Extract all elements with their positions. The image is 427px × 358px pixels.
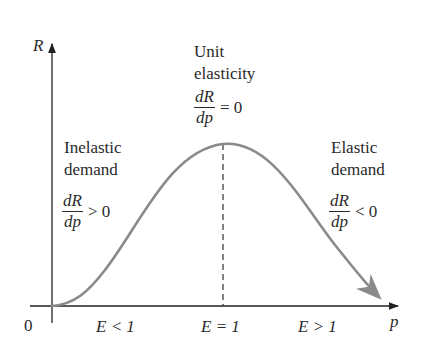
elastic-label-line2: demand <box>331 160 385 180</box>
frac-den: dp <box>196 108 213 127</box>
frac-relation: < 0 <box>355 202 377 222</box>
frac-num: dR <box>62 192 83 212</box>
x-axis-label: p <box>390 312 399 332</box>
elastic-label-line1: Elastic <box>331 138 377 158</box>
inelastic-derivative: dRdp > 0 <box>62 192 110 231</box>
frac-num: dR <box>329 192 350 212</box>
frac-relation: = 0 <box>220 98 242 118</box>
unit-label-line1: Unit <box>194 42 224 62</box>
inelastic-label-line1: Inelastic <box>64 138 122 158</box>
inelastic-label-line2: demand <box>64 160 118 180</box>
elastic-derivative: dRdp < 0 <box>329 192 377 231</box>
e-greater-label: E > 1 <box>298 317 337 337</box>
frac-den: dp <box>64 212 81 231</box>
e-equal-label: E = 1 <box>201 317 240 337</box>
frac-den: dp <box>331 212 348 231</box>
e-less-label: E < 1 <box>96 317 135 337</box>
unit-label-line2: elasticity <box>194 64 255 84</box>
origin-label: 0 <box>24 316 33 336</box>
frac-relation: > 0 <box>88 202 110 222</box>
y-axis-label: R <box>33 36 43 56</box>
frac-num: dR <box>194 88 215 108</box>
unit-derivative: dRdp = 0 <box>194 88 242 127</box>
